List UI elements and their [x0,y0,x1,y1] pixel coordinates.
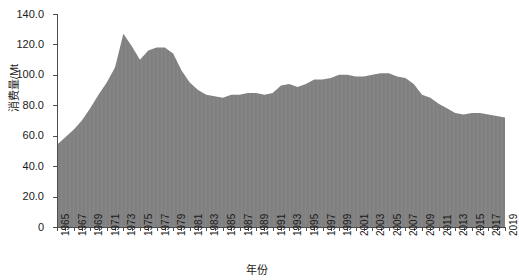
y-tick-mark [53,197,57,198]
x-tick-label: 1979 [177,214,187,236]
y-axis-title: 消费量/Mt [5,38,21,138]
x-tick-label: 2019 [509,214,519,236]
y-tick-label: 100.0 [0,69,44,80]
x-tick-mark [389,227,390,231]
x-tick-mark [306,227,307,231]
y-tick-mark [53,44,57,45]
y-tick-label: 140.0 [0,9,44,20]
x-tick-label: 1987 [244,214,254,236]
x-tick-mark [107,227,108,231]
y-axis-line [57,14,58,227]
x-tick-label: 2007 [409,214,419,236]
x-tick-mark [173,227,174,231]
x-tick-label: 1969 [94,214,104,236]
x-tick-label: 1981 [194,214,204,236]
x-tick-label: 1989 [260,214,270,236]
x-tick-mark [422,227,423,231]
x-tick-label: 2017 [492,214,502,236]
x-tick-label: 1971 [111,214,121,236]
x-tick-mark [439,227,440,231]
x-tick-label: 1997 [327,214,337,236]
x-tick-mark [57,227,58,231]
x-tick-mark [455,227,456,231]
x-tick-label: 1983 [210,214,220,236]
y-tick-mark [53,166,57,167]
y-tick-mark [53,75,57,76]
x-tick-mark [90,227,91,231]
x-tick-label: 1999 [343,214,353,236]
x-tick-label: 1975 [144,214,154,236]
plot-area: 020.040.060.080.0100.0120.0140.0 1965196… [57,14,505,227]
x-tick-mark [339,227,340,231]
y-tick-label: 20.0 [0,191,44,202]
y-tick-mark [53,136,57,137]
x-tick-label: 2003 [376,214,386,236]
x-tick-mark [273,227,274,231]
x-axis-title: 年份 [0,261,513,277]
x-tick-mark [240,227,241,231]
x-tick-label: 1995 [310,214,320,236]
x-tick-label: 2005 [393,214,403,236]
x-tick-label: 1991 [277,214,287,236]
x-tick-label: 1967 [78,214,88,236]
x-tick-mark [74,227,75,231]
x-tick-mark [372,227,373,231]
x-tick-mark [157,227,158,231]
x-tick-label: 2011 [443,214,453,236]
x-tick-label: 2001 [360,214,370,236]
x-tick-mark [190,227,191,231]
x-tick-mark [223,227,224,231]
x-tick-mark [405,227,406,231]
x-tick-mark [206,227,207,231]
x-tick-label: 2013 [459,214,469,236]
y-tick-label: 0 [0,222,44,233]
y-tick-label: 120.0 [0,39,44,50]
y-tick-mark [53,14,57,15]
y-tick-label: 60.0 [0,130,44,141]
x-tick-mark [505,227,506,231]
y-tick-label: 80.0 [0,100,44,111]
x-tick-label: 1985 [227,214,237,236]
x-tick-mark [256,227,257,231]
x-tick-label: 2009 [426,214,436,236]
x-tick-mark [289,227,290,231]
x-tick-mark [323,227,324,231]
y-tick-mark [53,105,57,106]
x-tick-mark [472,227,473,231]
x-tick-mark [356,227,357,231]
x-tick-label: 1973 [127,214,137,236]
x-tick-label: 1993 [293,214,303,236]
x-tick-label: 2015 [476,214,486,236]
y-tick-label: 40.0 [0,161,44,172]
area-series-svg [57,14,505,227]
x-tick-label: 1965 [61,214,71,236]
x-tick-mark [140,227,141,231]
x-tick-label: 1977 [161,214,171,236]
x-tick-mark [488,227,489,231]
x-tick-mark [123,227,124,231]
